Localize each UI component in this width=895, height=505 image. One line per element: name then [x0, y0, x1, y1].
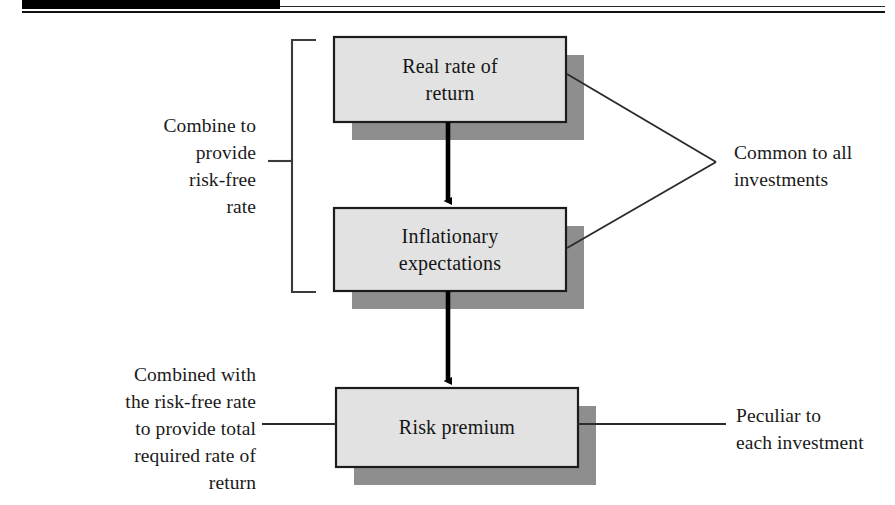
annotation-peculiar-to-each: Peculiar to each investment	[736, 403, 895, 457]
box-inflationary-expectations[interactable]	[334, 208, 566, 291]
box-real-rate-of-return[interactable]	[334, 37, 566, 122]
left-bracket	[292, 40, 316, 292]
leader-real-rate-to-common	[567, 74, 716, 162]
annotation-common-to-all: Common to all investments	[734, 140, 894, 194]
leader-inflation-to-common	[567, 162, 716, 248]
diagram-page: Real rate of return Inflationary expecta…	[0, 0, 895, 505]
annotation-combine-risk-free: Combine to provide risk-free rate	[96, 113, 256, 221]
box-risk-premium[interactable]	[336, 388, 578, 467]
annotation-combined-total-required: Combined with the risk-free rate to prov…	[14, 362, 256, 497]
